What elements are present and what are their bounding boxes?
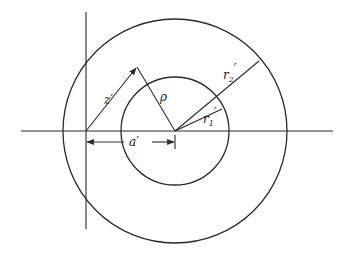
r1-label: r1′ (203, 106, 217, 128)
z-label: z′ (103, 93, 113, 107)
diagram-svg: z′ ρ a′ r2′ r1′ (0, 0, 343, 255)
diagram: z′ ρ a′ r2′ r1′ (0, 0, 343, 255)
rho-label: ρ (159, 90, 167, 104)
r2-radius (175, 61, 259, 131)
a-label: a′ (129, 135, 139, 149)
rho-line (137, 67, 175, 131)
